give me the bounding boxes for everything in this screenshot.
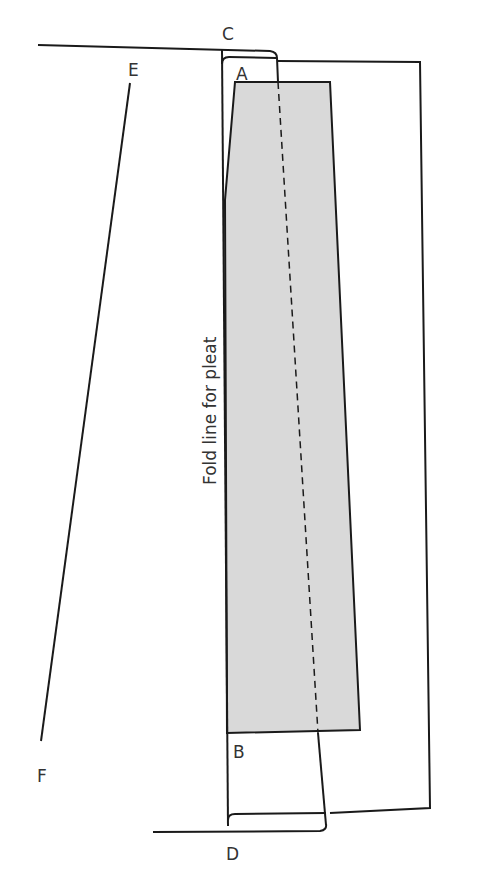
label-b: B [233, 744, 245, 761]
shaded-panel [225, 82, 360, 733]
pleat-lower-line [318, 733, 326, 825]
line-ef [41, 83, 130, 741]
label-c: C [222, 26, 234, 43]
label-f: F [37, 768, 47, 785]
label-d: D [226, 846, 239, 863]
pleat-bottom-fold [228, 813, 326, 820]
label-e: E [128, 62, 139, 79]
pleat-top-fold [222, 57, 276, 64]
label-a: A [236, 66, 248, 83]
fold-line-label: Fold line for pleat [200, 337, 220, 485]
bottom-hem-line [153, 824, 326, 832]
